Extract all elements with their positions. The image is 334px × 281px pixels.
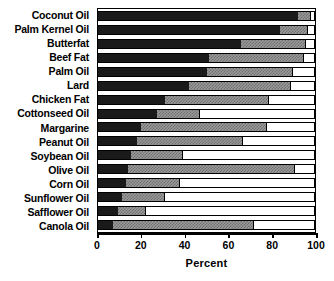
bar-row <box>98 53 315 63</box>
y-axis-label: Sunflower Oil <box>0 191 93 205</box>
bar-row <box>98 67 315 77</box>
bar-segment <box>200 110 315 118</box>
bar-segment <box>122 193 165 201</box>
bar-segment <box>269 96 315 104</box>
bar-row <box>98 109 315 119</box>
bar-segment <box>304 54 315 62</box>
y-axis-label: Palm Oil <box>0 64 93 78</box>
bar-segment <box>295 165 315 173</box>
y-axis-label: Safflower Oil <box>0 205 93 219</box>
x-axis-tick <box>316 233 318 238</box>
bar-segment <box>180 179 315 187</box>
bar-segment <box>98 40 241 48</box>
bar-segment <box>98 137 137 145</box>
y-axis-label: Palm Kernel Oil <box>0 22 93 36</box>
bar-segment <box>146 207 315 215</box>
bar-segment <box>157 110 200 118</box>
bar-row <box>98 122 315 132</box>
y-axis-label: Peanut Oil <box>0 135 93 149</box>
x-axis-tick-label: 40 <box>170 239 200 251</box>
bar-row <box>98 220 315 230</box>
bar-segment <box>98 179 126 187</box>
y-axis-label: Butterfat <box>0 36 93 50</box>
bar-segment <box>113 221 254 229</box>
x-axis-tick <box>97 233 99 238</box>
bar-row <box>98 150 315 160</box>
bar-segment <box>189 82 291 90</box>
y-axis-label: Olive Oil <box>0 163 93 177</box>
bar-row <box>98 25 315 35</box>
bar-segment <box>98 123 141 131</box>
bar-segment <box>131 151 183 159</box>
bar-row <box>98 39 315 49</box>
x-axis-title: Percent <box>97 257 316 269</box>
x-axis-tick <box>141 233 143 238</box>
bar-segment <box>98 12 298 20</box>
bar-row <box>98 11 315 21</box>
y-axis-label: Cottonseed Oil <box>0 106 93 120</box>
bar-segment <box>243 137 315 145</box>
y-axis-label: Margarine <box>0 121 93 135</box>
y-axis-label: Chicken Fat <box>0 92 93 106</box>
x-axis-tick-label: 20 <box>126 239 156 251</box>
bar-row <box>98 164 315 174</box>
bar-segment <box>98 193 122 201</box>
bar-segment <box>98 96 165 104</box>
bar-segment <box>98 110 157 118</box>
bar-segment <box>98 207 118 215</box>
x-axis-tick <box>272 233 274 238</box>
x-axis-tick-label: 60 <box>213 239 243 251</box>
bar-segment <box>118 207 146 215</box>
plot-area <box>97 8 316 233</box>
bar-segment <box>98 221 113 229</box>
bar-segment <box>183 151 315 159</box>
bars-container <box>98 9 315 232</box>
bar-segment <box>308 26 315 34</box>
bar-row <box>98 81 315 91</box>
bar-segment <box>98 151 131 159</box>
x-axis-tick <box>185 233 187 238</box>
bar-segment <box>141 123 267 131</box>
y-axis-label: Canola Oil <box>0 219 93 233</box>
bar-segment <box>209 54 304 62</box>
bar-segment <box>98 26 280 34</box>
bar-segment <box>291 82 315 90</box>
bar-row <box>98 178 315 188</box>
bar-segment <box>165 96 269 104</box>
bar-segment <box>137 137 243 145</box>
x-axis-tick <box>228 233 230 238</box>
stacked-bar-chart: Coconut OilPalm Kernel OilButterfatBeef … <box>0 0 334 281</box>
bar-segment <box>98 165 128 173</box>
x-axis-tick-label: 80 <box>257 239 287 251</box>
bar-segment <box>254 221 315 229</box>
bar-segment <box>98 68 207 76</box>
y-axis-label: Corn Oil <box>0 177 93 191</box>
x-axis-line <box>97 233 316 235</box>
bar-segment <box>241 40 306 48</box>
bar-segment <box>207 68 294 76</box>
bar-segment <box>98 54 209 62</box>
bar-segment <box>165 193 315 201</box>
x-axis: 020406080100 <box>97 233 316 234</box>
bar-segment <box>306 40 315 48</box>
bar-row <box>98 136 315 146</box>
bar-segment <box>298 12 311 20</box>
bar-segment <box>311 12 315 20</box>
y-axis-label: Soybean Oil <box>0 149 93 163</box>
bar-segment <box>128 165 295 173</box>
x-axis-tick-label: 100 <box>301 239 331 251</box>
bar-segment <box>293 68 315 76</box>
y-axis-label: Beef Fat <box>0 50 93 64</box>
bar-row <box>98 95 315 105</box>
bar-segment <box>126 179 180 187</box>
bar-segment <box>98 82 189 90</box>
bar-row <box>98 192 315 202</box>
y-axis-label: Coconut Oil <box>0 8 93 22</box>
y-axis-category-labels: Coconut OilPalm Kernel OilButterfatBeef … <box>0 8 93 233</box>
bar-segment <box>267 123 315 131</box>
bar-segment <box>280 26 308 34</box>
x-axis-tick-label: 0 <box>82 239 112 251</box>
bar-row <box>98 206 315 216</box>
y-axis-label: Lard <box>0 78 93 92</box>
